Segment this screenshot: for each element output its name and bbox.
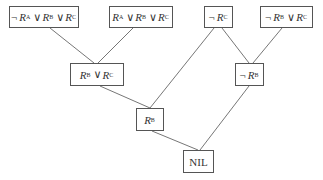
literal-variable: R [80,69,87,81]
literal-subscript: A [119,14,123,20]
literal-variable: R [135,11,142,23]
clause-node-n7: RB [136,108,164,131]
clause-node-n5: RB∨RC [70,63,124,86]
or-symbol: ∨ [126,11,134,24]
edge-n1-n5 [50,28,94,63]
edge-n2-n5 [98,28,133,63]
or-symbol: ∨ [149,11,157,24]
literal-variable: R [65,11,72,23]
or-symbol: ∨ [287,11,295,24]
edge-n6-n8 [200,86,249,150]
literal-variable: R [103,69,110,81]
literal-subscript: B [86,72,90,78]
not-symbol: ¬ [240,69,246,81]
literal-subscript: C [303,14,307,20]
clause-node-n2: RA∨RB∨RC [109,6,173,28]
literal-subscript: B [142,14,146,20]
literal-variable: R [19,11,26,23]
literal-subscript: B [254,72,258,78]
or-symbol: ∨ [93,68,101,81]
not-symbol: ¬ [265,11,271,23]
literal-subscript: C [109,72,113,78]
not-symbol: ¬ [11,11,17,23]
or-symbol: ∨ [33,11,41,24]
edge-n4-n6 [253,28,282,63]
literal-variable: R [273,11,280,23]
edge-n3-n6 [222,28,249,63]
clause-node-n1: ¬RA∨RB∨RC [9,6,79,28]
literal-variable: R [248,69,255,81]
literal-subscript: C [223,14,227,20]
literal-variable: R [217,11,224,23]
clause-node-n4: ¬RB∨RC [260,6,313,28]
clause-node-n3: ¬RC [204,6,233,28]
literal-subscript: C [165,14,169,20]
literal-subscript: B [151,117,155,123]
literal-subscript: A [26,14,30,20]
literal-variable: R [42,11,49,23]
not-symbol: ¬ [209,11,215,23]
edge-n7-n8 [152,131,198,150]
edge-n5-n7 [100,86,150,108]
literal-subscript: B [49,14,53,20]
clause-node-n6: ¬RB [235,63,264,86]
literal-variable: R [296,11,303,23]
literal-variable: R [112,11,119,23]
literal-subscript: B [280,14,284,20]
literal-variable: R [158,11,165,23]
or-symbol: ∨ [56,11,64,24]
literal-subscript: C [72,14,76,20]
clause-node-n8: NIL [183,150,214,173]
literal-variable: R [144,114,151,126]
edge-n3-n7 [150,28,214,108]
clause-label: NIL [189,156,207,168]
